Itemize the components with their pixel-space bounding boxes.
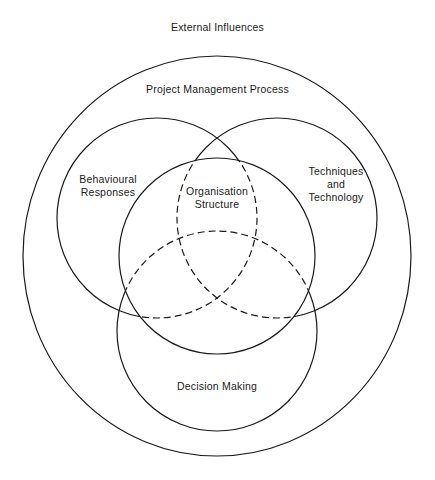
outer-circle-project-management: [23, 56, 411, 456]
label-line: Technology: [298, 191, 374, 204]
right-circle-techniques: [177, 118, 377, 318]
right-circle-dashed: [177, 118, 377, 318]
label-line: and: [298, 178, 374, 191]
title-external-influences: External Influences: [0, 21, 435, 34]
venn-diagram: [0, 0, 435, 480]
left-circle-dashed: [57, 118, 257, 318]
label-decision-making: Decision Making: [167, 380, 267, 393]
bottom-circle-dashed: [117, 231, 317, 431]
label-line: Structure: [178, 198, 256, 211]
label-behavioural-responses: Behavioural Responses: [70, 173, 146, 199]
label-line: Responses: [70, 186, 146, 199]
label-organisation-structure: Organisation Structure: [178, 185, 256, 211]
label-line: Behavioural: [70, 173, 146, 186]
label-line: Organisation: [178, 185, 256, 198]
label-project-management-process: Project Management Process: [0, 83, 435, 96]
bottom-circle-decision: [117, 231, 317, 431]
label-line: Techniques: [298, 165, 374, 178]
label-techniques-technology: Techniques and Technology: [298, 165, 374, 204]
left-circle-behavioural: [57, 118, 257, 318]
